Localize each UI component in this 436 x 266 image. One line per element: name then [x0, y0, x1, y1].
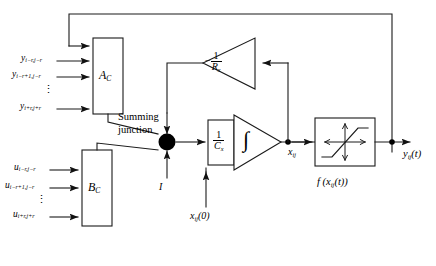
b-template-label: BC — [88, 181, 100, 194]
capacitor-gain-label: 1 Cx — [213, 130, 224, 152]
b-template-output-wire — [97, 143, 158, 150]
nonlinearity-caption: f (xij(t)) — [317, 177, 348, 188]
a-template-inputs — [57, 61, 89, 109]
input-ellipsis-y: ⋮ — [43, 84, 54, 95]
resistor-gain-output-wire — [167, 63, 203, 113]
initial-condition-label: xij(0) — [190, 211, 210, 222]
resistor-gain-label: − 1 Rx — [205, 51, 222, 73]
summing-junction-caption: Summing junction — [118, 112, 159, 135]
current-label: I — [159, 182, 162, 192]
integrator-symbol: ∫ — [243, 129, 249, 151]
input-ellipsis-u: ⋮ — [36, 194, 47, 205]
block-diagram-canvas: AC BC yi−r,j−r yi−r+1,j−r ⋮ yi+r,j+r ui−… — [0, 0, 436, 266]
state-label: xij — [288, 147, 296, 158]
input-label-u-3: ui+r,j+r — [13, 210, 35, 220]
summing-junction-line1: Summing — [118, 112, 159, 123]
summing-junction-line2: junction — [118, 125, 159, 136]
input-label-y-2: yi−r+1,j−r — [12, 70, 41, 80]
summing-junction-dot — [159, 134, 176, 151]
input-label-u-2: ui−r+1,j−r — [5, 181, 34, 191]
input-label-u-1: ui−r,j−r — [14, 163, 36, 173]
resistor-gain-numerator: 1 — [211, 51, 222, 61]
capacitor-gain-numerator: 1 — [213, 130, 224, 140]
integrator-triangle — [234, 115, 281, 170]
output-label: yij(t) — [403, 149, 421, 160]
input-label-y-1: yi−r,j−r — [21, 54, 42, 64]
resistor-gain-denominator: Rx — [211, 61, 222, 73]
input-label-y-3: yi+r,j+r — [20, 102, 41, 112]
output-tap-dot — [389, 139, 395, 145]
capacitor-gain-denominator: Cx — [213, 140, 224, 152]
b-template-inputs — [50, 170, 78, 217]
a-template-label: AC — [99, 69, 111, 82]
